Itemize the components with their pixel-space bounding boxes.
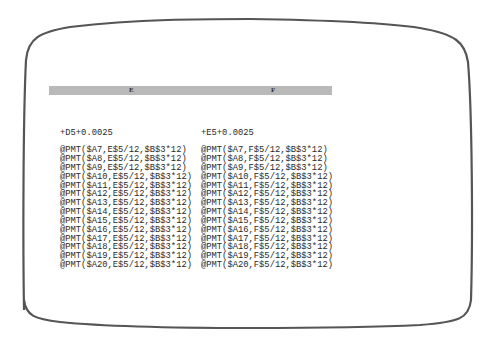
cell-e5[interactable]: +D5+0.0025 xyxy=(60,129,192,138)
column-f-cells: +E5+0.0025 @PMT($A7,F$5/12,$B$3*12) @PMT… xyxy=(201,129,333,270)
cell-f20[interactable]: @PMT($A20,F$5/12,$B$3*12) xyxy=(201,261,333,270)
column-header-e[interactable]: E xyxy=(129,86,134,95)
cell-f5[interactable]: +E5+0.0025 xyxy=(201,129,333,138)
cell-e20[interactable]: @PMT($A20,E$5/12,$B$3*12) xyxy=(60,261,192,270)
column-e-cells: +D5+0.0025 @PMT($A7,E$5/12,$B$3*12) @PMT… xyxy=(60,129,192,270)
column-header-f[interactable]: F xyxy=(271,86,275,95)
column-header-bar: E F xyxy=(49,86,332,95)
